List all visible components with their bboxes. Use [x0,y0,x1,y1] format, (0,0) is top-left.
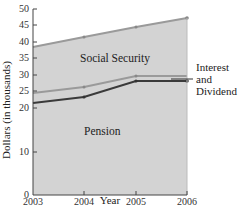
x-axis-title: Year [100,194,121,205]
x-tick-label: 2003 [23,196,43,205]
y-tick-label: 45 [19,19,29,30]
pension-label: Pension [84,125,121,137]
data-point [135,26,138,29]
interest-label-line1: Interest [196,61,229,73]
y-tick-label: 20 [19,102,29,113]
y-tick-label: 35 [19,52,29,63]
chart-fill-area [33,18,187,195]
y-tick-label: 30 [19,69,29,80]
interest-label-line2: and [196,73,212,85]
social-security-label: Social Security [80,52,150,65]
y-tick-label: 40 [19,36,29,47]
data-point [135,75,138,78]
data-point [134,79,137,82]
y-axis-title: Dollars (in thousands) [0,61,13,159]
data-point [83,86,86,89]
x-tick-label: 2006 [177,196,197,205]
data-point [83,36,86,39]
x-tick-label: 2004 [74,196,94,205]
y-tick-label: 25 [19,85,29,96]
area-chart: 50 45 40 35 30 25 20 10 0 2003 2004 2005… [0,0,241,205]
y-tick-label: 50 [19,3,29,14]
x-tick-label: 2005 [126,196,146,205]
data-point [82,95,85,98]
interest-label-line3: Dividend [196,85,237,97]
y-tick-label: 10 [19,146,29,157]
